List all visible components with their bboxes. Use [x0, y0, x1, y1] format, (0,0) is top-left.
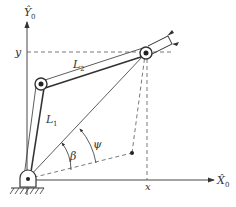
- link-2: [45, 48, 144, 88]
- link-1-subscript: 1: [53, 120, 57, 128]
- auxiliary-point: [130, 151, 134, 155]
- dashed-line-base-to-point: [27, 153, 132, 179]
- base-pivot: [10, 170, 44, 194]
- beta-label: β: [69, 150, 76, 163]
- manipulator-diagram: Ŷ 0 X̂ 0 y x L 2 L 1 β ψ: [0, 0, 236, 207]
- x-coordinate-label: x: [145, 181, 151, 192]
- y-coordinate-label: y: [14, 46, 22, 59]
- gripper: [148, 30, 179, 54]
- y-axis-subscript: 0: [31, 13, 35, 21]
- end-joint: [140, 47, 152, 59]
- elbow-joint: [35, 78, 47, 90]
- dashed-line-point-to-end: [132, 55, 145, 153]
- psi-label: ψ: [93, 138, 102, 151]
- x-axis-subscript: 0: [225, 181, 229, 189]
- link-2-subscript: 2: [80, 65, 84, 73]
